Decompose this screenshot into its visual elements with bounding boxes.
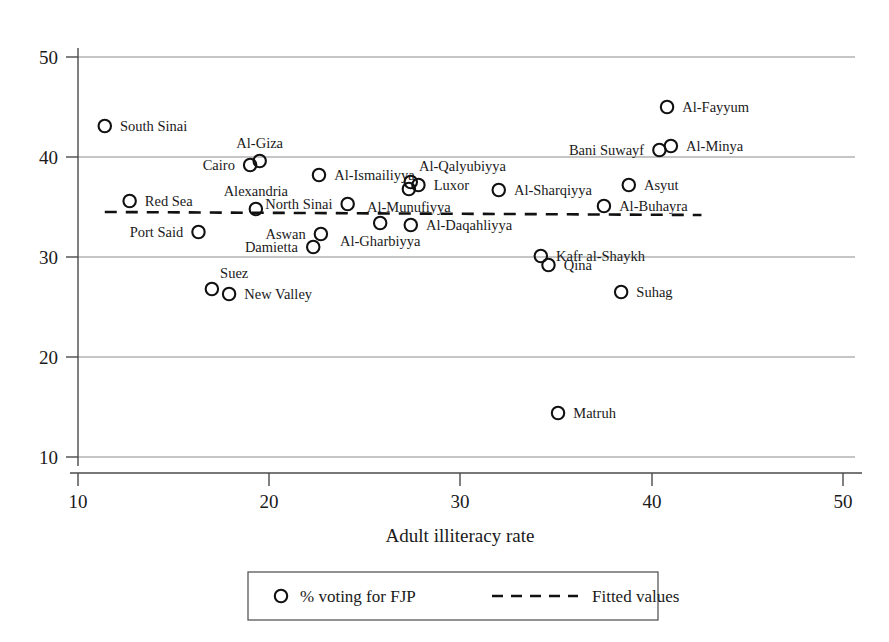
data-point-marker: [552, 407, 564, 419]
data-point-marker: [374, 217, 386, 229]
legend: % voting for FJP Fitted values: [248, 572, 679, 620]
x-tick-label-30: 30: [451, 491, 470, 512]
data-point: Al-Gharbiyya: [340, 217, 421, 249]
data-point: Luxor: [412, 177, 469, 193]
data-point-label: Al-Minya: [686, 138, 744, 154]
data-point-label: Cairo: [203, 157, 235, 173]
data-points-layer: South SinaiRed SeaPort SaidSuezNew Valle…: [99, 99, 750, 421]
data-point: North Sinai: [265, 196, 354, 212]
data-point-label: Al-Daqahliyya: [426, 217, 513, 233]
data-point-label: New Valley: [244, 286, 313, 302]
data-point-marker: [307, 241, 319, 253]
data-point: Al-Sharqiyya: [493, 182, 593, 198]
y-tick-label-30: 30: [39, 247, 58, 268]
data-point-label: Suez: [220, 265, 249, 281]
y-axis: 50 40 30 20 10: [39, 47, 78, 468]
data-point-marker: [313, 169, 325, 181]
data-point-marker: [661, 101, 673, 113]
x-axis: 10 20 30 40 50 Adult illiteracy rate: [69, 473, 863, 546]
data-point-label: Al-Fayyum: [682, 99, 750, 115]
x-tick-label-50: 50: [834, 491, 853, 512]
data-point-marker: [665, 140, 677, 152]
data-point: Asyut: [623, 177, 679, 193]
y-tick-label-40: 40: [39, 147, 58, 168]
data-point-label: Aswan: [265, 226, 306, 242]
data-point: Al-Buhayra: [598, 198, 688, 214]
data-point-label: Al-Munufiyya: [367, 199, 451, 215]
data-point: Port Said: [130, 224, 205, 240]
y-tick-label-50: 50: [39, 47, 58, 68]
scatter-plot-figure: 50 40 30 20 10 10 20 30 40 50 Adult illi…: [0, 0, 889, 642]
x-tick-label-20: 20: [260, 491, 279, 512]
data-point-label: Red Sea: [145, 193, 193, 209]
legend-circle-marker-icon: [275, 590, 287, 602]
data-point: Suhag: [615, 284, 673, 300]
data-point: Suez: [206, 265, 249, 295]
data-point: South Sinai: [99, 118, 188, 134]
data-point-label: Al-Gharbiyya: [340, 233, 421, 249]
data-point-label: Luxor: [434, 177, 470, 193]
data-point: Bani Suwayf: [569, 142, 666, 158]
x-tick-label-40: 40: [643, 491, 662, 512]
data-point: Al-Fayyum: [661, 99, 750, 115]
legend-label-fitted: Fitted values: [592, 587, 679, 606]
data-point-marker: [341, 198, 353, 210]
data-point-marker: [598, 200, 610, 212]
data-point-label: Port Said: [130, 224, 184, 240]
data-point-label: Al-Qalyubiyya: [419, 158, 507, 174]
data-point: Al-Daqahliyya: [405, 217, 513, 233]
data-point-label: North Sinai: [265, 196, 332, 212]
data-point-marker: [315, 228, 327, 240]
data-point-label: Asyut: [644, 177, 679, 193]
data-point-marker: [223, 288, 235, 300]
chart-canvas: 50 40 30 20 10 10 20 30 40 50 Adult illi…: [0, 0, 889, 642]
data-point: Red Sea: [123, 193, 193, 209]
x-tick-label-10: 10: [69, 491, 88, 512]
data-point: Matruh: [552, 405, 617, 421]
y-tick-label-20: 20: [39, 347, 58, 368]
data-point-label: Matruh: [573, 405, 616, 421]
legend-label-voting: % voting for FJP: [300, 587, 416, 606]
data-point: Cairo: [203, 157, 257, 173]
data-point-label: Bani Suwayf: [569, 142, 644, 158]
data-point-label: Al-Buhayra: [619, 198, 688, 214]
data-point-label: Suhag: [636, 284, 672, 300]
data-point-marker: [615, 286, 627, 298]
data-point: New Valley: [223, 286, 313, 302]
gridlines: [78, 57, 855, 457]
data-point-label: Al-Sharqiyya: [514, 182, 593, 198]
data-point-marker: [206, 283, 218, 295]
data-point: Al-Ismailiyya: [313, 167, 416, 183]
data-point-marker: [99, 120, 111, 132]
data-point-label: Al-Giza: [236, 135, 283, 151]
data-point-label: Qina: [564, 257, 593, 273]
data-point-marker: [192, 226, 204, 238]
y-tick-label-10: 10: [39, 447, 58, 468]
data-point-marker: [623, 179, 635, 191]
data-point: Aswan: [265, 226, 327, 242]
data-point-label: South Sinai: [120, 118, 187, 134]
data-point: Al-Minya: [665, 138, 744, 154]
data-point: Qina: [542, 257, 592, 273]
data-point-marker: [542, 259, 554, 271]
x-axis-title: Adult illiteracy rate: [386, 525, 535, 546]
data-point-marker: [405, 219, 417, 231]
data-point-marker: [493, 184, 505, 196]
data-point-marker: [123, 195, 135, 207]
data-point-label: Al-Ismailiyya: [334, 167, 415, 183]
